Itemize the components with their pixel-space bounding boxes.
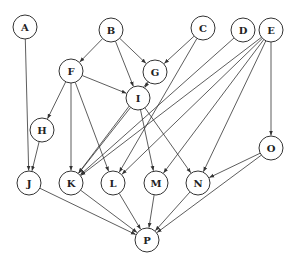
edge-i-k [79, 107, 131, 173]
node-c: C [191, 16, 215, 40]
edge-b-i [115, 41, 133, 86]
edge-i-m [140, 110, 153, 171]
edge-e-m [164, 40, 264, 173]
edge-m-p [149, 195, 154, 228]
node-label: N [193, 178, 202, 189]
edge-h-j [32, 142, 39, 171]
node-label: F [67, 66, 74, 77]
edge-o-n [209, 153, 260, 177]
node-label: C [199, 23, 207, 34]
edge-b-f [80, 39, 103, 62]
edge-k-p [81, 190, 137, 232]
node-label: G [151, 67, 160, 78]
node-label: E [267, 25, 275, 36]
node-label: M [150, 178, 161, 189]
node-label: P [143, 235, 151, 246]
nodes-layer: ABCDEFGIHJKLMNOP [13, 15, 283, 252]
edge-o-p [157, 155, 261, 232]
edge-f-h [48, 82, 66, 119]
node-label: A [20, 22, 29, 33]
edge-f-i [82, 75, 126, 93]
edge-n-p [155, 192, 190, 231]
node-a: A [13, 15, 37, 39]
node-j: J [17, 171, 41, 195]
edge-b-g [120, 38, 146, 63]
node-label: I [136, 93, 141, 104]
node-i: I [126, 86, 150, 110]
node-h: H [30, 118, 54, 142]
node-b: B [99, 18, 123, 42]
edge-e-n [203, 41, 265, 172]
dependency-graph: ABCDEFGIHJKLMNOP [0, 0, 298, 258]
node-e: E [259, 18, 283, 42]
node-label: B [107, 25, 115, 36]
edge-d-k [80, 38, 234, 175]
edge-l-p [119, 193, 140, 229]
node-k: K [59, 171, 83, 195]
edge-c-g [164, 36, 194, 63]
node-g: G [143, 60, 167, 84]
edge-f-l [75, 82, 108, 171]
node-d: D [231, 18, 255, 42]
node-label: J [26, 178, 32, 189]
node-label: L [109, 178, 116, 189]
node-p: P [135, 228, 159, 252]
node-label: O [267, 143, 276, 154]
node-label: H [37, 125, 46, 136]
node-o: O [259, 136, 283, 160]
node-f: F [59, 59, 83, 83]
node-m: M [144, 171, 168, 195]
edge-a-j [25, 39, 28, 171]
node-n: N [186, 171, 210, 195]
node-l: L [101, 171, 125, 195]
node-label: D [239, 25, 248, 36]
node-label: K [67, 178, 76, 189]
